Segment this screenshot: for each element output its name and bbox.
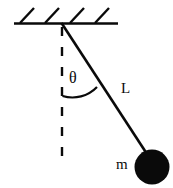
hatch-mark — [70, 8, 84, 23]
hatch-mark — [45, 8, 59, 23]
pendulum-string — [62, 23, 148, 154]
length-label-L: L — [121, 81, 130, 96]
angle-label-theta: θ — [69, 70, 77, 86]
mass-label-m: m — [116, 157, 128, 172]
pendulum-bob — [135, 150, 170, 185]
pendulum-diagram: θ L m — [0, 0, 173, 188]
angle-arc — [63, 87, 98, 97]
hatch-mark — [20, 8, 34, 23]
pendulum-drawing-canvas — [0, 0, 173, 188]
hatch-mark — [95, 8, 109, 23]
ceiling-hatching-icon — [20, 8, 109, 23]
